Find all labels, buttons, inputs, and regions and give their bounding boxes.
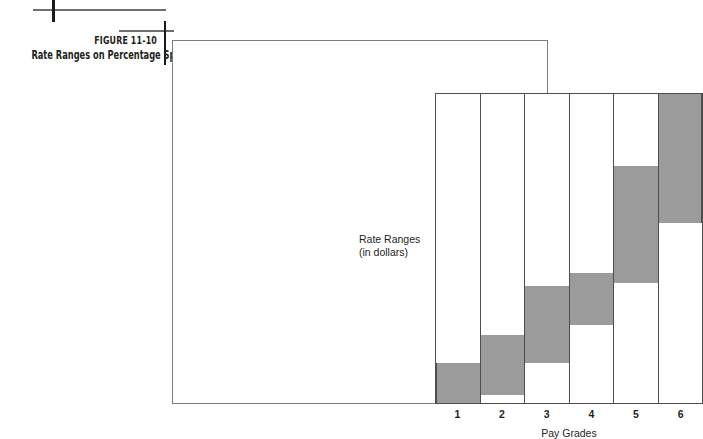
x-axis-tick-label-2: 2 [480,406,525,422]
page-top-tick-mark [52,0,55,22]
chart-columns [435,93,703,404]
rate-range-bar-grade-4 [569,273,615,326]
chart-column-grade-3 [524,93,569,404]
rate-range-bar-grade-2 [480,335,526,395]
figure-title: Rate Ranges on Percentage Spreads [31,48,157,62]
figure-caption: FIGURE 11-10 Rate Ranges on Percentage S… [0,34,157,62]
x-axis-tick-label-3: 3 [524,406,569,422]
rate-range-bar-grade-1 [436,363,481,403]
x-axis-tick-label-1: 1 [435,406,480,422]
chart-column-grade-4 [569,93,614,404]
x-axis-tick-label-4: 4 [569,406,614,422]
x-axis-title: Pay Grades [435,427,703,439]
x-axis-tick-label-6: 6 [658,406,703,422]
chart-column-grade-6 [658,93,703,404]
rate-range-bar-grade-3 [524,286,570,363]
chart-column-grade-1 [435,93,480,404]
figure-number: FIGURE 11-10 [31,34,157,47]
x-axis-tick-labels: 123456 [435,406,703,422]
figure-frame: Rate Ranges (in dollars) 123456 Pay Grad… [172,40,548,404]
rate-range-bar-grade-6 [658,94,703,223]
bar-chart-plot-area [435,93,703,404]
x-axis-tick-label-5: 5 [614,406,659,422]
chart-column-grade-2 [480,93,525,404]
chart-column-grade-5 [613,93,658,404]
rate-range-bar-grade-5 [613,166,659,283]
